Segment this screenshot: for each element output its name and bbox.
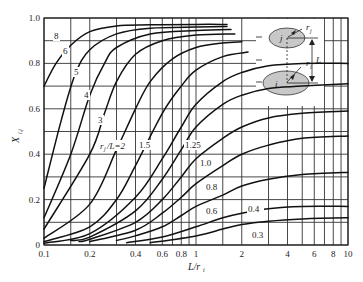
x-tick-label: 0.2 <box>84 249 95 259</box>
ratio-label-sub: j <box>103 146 106 152</box>
view-factor-chart: jirjriL865431.51.251.00.80.60.40.3rj/L=2… <box>0 0 363 282</box>
x-tick-label: 10 <box>344 249 354 259</box>
x-tick-label: 0.4 <box>130 249 142 259</box>
x-tick-label: 0.8 <box>176 249 188 259</box>
x-tick-label: 4 <box>285 249 290 259</box>
curve-label-1.0: 1.0 <box>200 158 212 168</box>
x-tick-label: 0.1 <box>38 249 49 259</box>
curve-label-1.25: 1.25 <box>185 140 201 150</box>
curve-label-0.6: 0.6 <box>206 206 218 216</box>
curve-label-0.3: 0.3 <box>252 230 264 240</box>
y-tick-label: 0.6 <box>29 104 41 114</box>
curve-label-5: 5 <box>74 67 79 77</box>
x-axis-title: L/r <box>187 261 200 272</box>
curve-label-6: 6 <box>63 46 68 56</box>
curve-label-3: 3 <box>98 115 103 125</box>
x-tick-label: 2 <box>240 249 245 259</box>
ratio-label-mid: /L=2 <box>106 141 126 151</box>
curve-label-8: 8 <box>54 31 59 41</box>
x-tick-label: 1 <box>194 249 199 259</box>
curve-label-0.8: 0.8 <box>206 182 218 192</box>
x-tick-label: 8 <box>331 249 336 259</box>
upper-radius-sub: j <box>309 28 312 34</box>
y-tick-label: 0.2 <box>29 195 40 205</box>
curve-0.4 <box>127 206 348 242</box>
curve-0.3 <box>150 218 348 243</box>
curve-label-1.5: 1.5 <box>139 140 151 150</box>
curve-label-4: 4 <box>84 90 89 100</box>
y-axis-title-sub: i,j <box>17 129 23 134</box>
y-tick-label: 1.0 <box>29 13 41 23</box>
y-axis-title: X <box>10 136 21 144</box>
curve-label-0.4: 0.4 <box>248 204 260 214</box>
y-tick-label: 0.8 <box>29 58 41 68</box>
curve-5 <box>44 29 231 217</box>
upper-disk-label: j <box>279 33 283 43</box>
x-tick-label: 6 <box>312 249 317 259</box>
x-axis-title-sub: i <box>203 267 205 273</box>
x-tick-label: 0.6 <box>157 249 169 259</box>
y-tick-label: 0.4 <box>29 149 41 159</box>
